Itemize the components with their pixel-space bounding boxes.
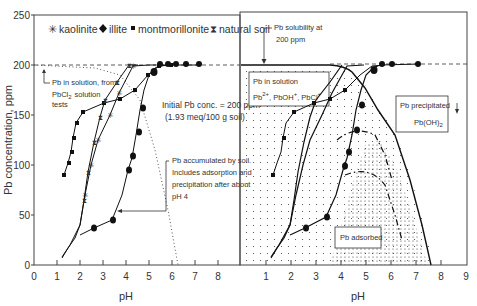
svg-text:⧗: ⧗ <box>127 62 132 69</box>
x-tick-left-6: 6 <box>169 271 175 282</box>
y-tick-50: 50 <box>19 210 31 221</box>
svg-text:(1.93 meq/100 g soil): (1.93 meq/100 g soil) <box>165 112 245 122</box>
annotation-solubility: Pb solubility at 200 ppm <box>262 23 324 64</box>
svg-text:PbCl2solution: PbCl2solution <box>52 90 100 100</box>
svg-text:Pb precipitated: Pb precipitated <box>400 101 450 110</box>
square-marker-icon <box>131 26 135 30</box>
svg-text:⧗: ⧗ <box>98 114 103 121</box>
diamond-icon <box>99 24 107 33</box>
asterisk-icon: ✳ <box>48 23 57 35</box>
y-axis-ticks: 0 50 100 150 200 250 <box>13 10 34 271</box>
chart-figure: Pb concentration, ppm 0 50 100 150 200 2… <box>0 0 477 306</box>
x-tick-left-5: 5 <box>146 271 152 282</box>
svg-text:precipitation after about: precipitation after about <box>172 180 251 189</box>
svg-text:Pb accumulated by soil.: Pb accumulated by soil. <box>172 156 251 165</box>
y-tick-100: 100 <box>13 160 30 171</box>
svg-text:Pb adsorbed: Pb adsorbed <box>340 233 383 242</box>
legend-kaolinite: kaolinite <box>59 23 98 35</box>
x-tick-left-3: 3 <box>100 271 106 282</box>
svg-text:⧗: ⧗ <box>115 79 120 86</box>
svg-text:⧗: ⧗ <box>82 197 87 204</box>
x-tick-right-6: 6 <box>388 271 394 282</box>
y-tick-150: 150 <box>13 110 30 121</box>
svg-text:tests: tests <box>52 100 68 109</box>
legend: ✳ kaolinite illite montmorillonite ⧗ nat… <box>48 23 270 35</box>
legend-natural-soil: natural soil <box>219 23 270 35</box>
x-tick-right-2: 2 <box>288 271 294 282</box>
x-tick-right-7: 7 <box>413 271 419 282</box>
x-tick-right-8: 8 <box>438 271 444 282</box>
x-tick-left-7: 7 <box>192 271 198 282</box>
hourglass-icon: ⧗ <box>210 24 217 35</box>
series-illite <box>80 61 202 235</box>
svg-text:Pb solubility at: Pb solubility at <box>274 23 323 32</box>
x-tick-left-1: 1 <box>54 271 60 282</box>
label-pb-adsorbed: Pb adsorbed <box>335 227 383 248</box>
right-panel: Pb solubility at 200 ppm Pb in solution … <box>240 12 469 302</box>
y-tick-0: 0 <box>24 260 30 271</box>
x-tick-right-5: 5 <box>363 271 369 282</box>
label-pb-in-solution: Pb in solution Pb2+, PbOH+, PbCl+ <box>249 72 329 106</box>
svg-text:⧗: ⧗ <box>103 97 108 104</box>
x-tick-left-2: 2 <box>77 271 83 282</box>
svg-text:✳: ✳ <box>116 89 123 98</box>
x-tick-right-3: 3 <box>313 271 319 282</box>
svg-text:pH 4: pH 4 <box>172 192 188 201</box>
x-axis-label-right: pH <box>351 290 365 302</box>
x-tick-left-0: 0 <box>31 271 37 282</box>
svg-text:⧗: ⧗ <box>86 169 91 176</box>
annotation-accumulated: Pb accumulated by soil. Includes adsorpt… <box>117 156 252 213</box>
left-plot-frame <box>34 15 240 265</box>
label-pb-precipitated: Pb precipitated Pb(OH)2 <box>396 96 459 132</box>
svg-text:200 ppm: 200 ppm <box>276 35 305 44</box>
x-tick-left-4: 4 <box>123 271 129 282</box>
svg-text:⧗: ⧗ <box>92 139 97 146</box>
x-tick-right-1: 1 <box>263 271 269 282</box>
x-axis-ticks-left <box>57 260 218 265</box>
svg-text:Pb(OH)2: Pb(OH)2 <box>414 118 443 128</box>
legend-illite: illite <box>109 23 127 35</box>
svg-text:✳: ✳ <box>107 111 114 120</box>
x-axis-label-left: pH <box>119 290 133 302</box>
svg-text:Pb in solution, from: Pb in solution, from <box>52 78 116 87</box>
x-tick-left-8: 8 <box>215 271 221 282</box>
y-axis-label: Pb concentration, ppm <box>2 85 14 195</box>
y-tick-250: 250 <box>13 10 30 21</box>
left-panel: 0 50 100 150 200 250 0 1 2 3 4 5 6 7 <box>13 10 269 302</box>
legend-montmorillonite: montmorillonite <box>138 23 209 35</box>
x-tick-right-9: 9 <box>463 271 469 282</box>
svg-text:Pb in solution: Pb in solution <box>253 77 298 86</box>
x-tick-right-4: 4 <box>338 271 344 282</box>
y-tick-200: 200 <box>13 60 30 71</box>
